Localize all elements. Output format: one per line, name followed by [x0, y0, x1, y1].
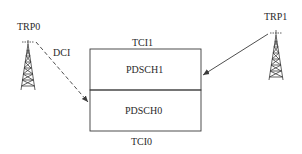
trp1-tower-icon: [269, 30, 283, 80]
pdsch1-label: PDSCH1: [126, 65, 163, 75]
tci0-label: TCI0: [131, 137, 152, 147]
trp1-label: TRP1: [264, 12, 287, 22]
pdsch0-label: PDSCH0: [125, 106, 162, 116]
trp1-arrow: [203, 34, 268, 75]
tci1-label: TCI1: [132, 38, 153, 48]
dci-label: DCI: [53, 48, 70, 58]
trp0-tower-icon: [21, 40, 35, 90]
diagram-canvas: [0, 0, 302, 154]
trp0-label: TRP0: [17, 22, 40, 32]
